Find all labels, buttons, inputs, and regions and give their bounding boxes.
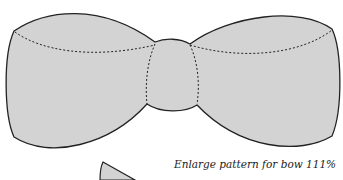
enlarge-instruction: Enlarge pattern for bow 111%	[174, 158, 343, 170]
bow-outline	[6, 14, 340, 148]
bow-pattern-diagram	[0, 0, 343, 180]
partial-pattern-piece	[100, 162, 135, 180]
